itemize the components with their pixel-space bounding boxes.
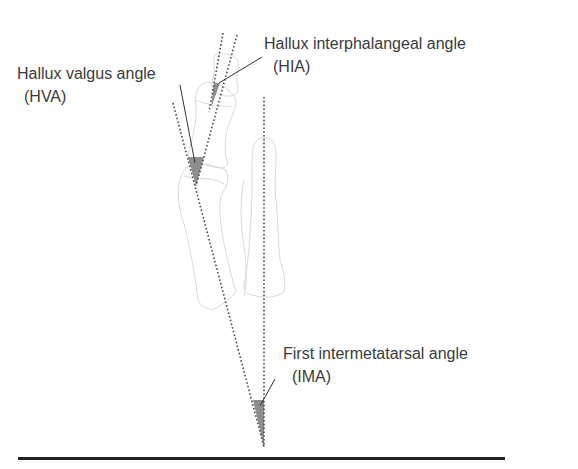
ip-joint-line <box>196 100 232 107</box>
first-metatarsal-axis <box>173 103 264 447</box>
axis-lines <box>173 33 264 447</box>
hva-angle-wedge <box>188 157 204 186</box>
ima-leader-line <box>260 379 275 406</box>
bone-outlines <box>178 53 285 310</box>
mtp-joint-line <box>184 176 224 184</box>
hia-leader-line <box>219 57 262 83</box>
hia-label: Hallux interphalangeal angle <box>264 36 466 52</box>
hia-angle-wedge <box>211 83 220 108</box>
distal-phalanx-axis <box>209 33 223 112</box>
ima-abbr: (IMA) <box>292 369 331 385</box>
hva-abbr: (HVA) <box>24 89 66 105</box>
leader-lines <box>180 57 275 406</box>
caption-divider-rule <box>18 457 505 460</box>
ima-label: First intermetatarsal angle <box>283 346 468 362</box>
proximal-phalanx-outline <box>188 82 236 168</box>
hva-leader-line <box>180 85 195 163</box>
hia-abbr: (HIA) <box>273 59 310 75</box>
hva-label: Hallux valgus angle <box>17 66 156 82</box>
hallux-valgus-angle-diagram: Hallux valgus angle (HVA) Hallux interph… <box>0 0 578 469</box>
first-metatarsal-outline <box>178 164 236 310</box>
